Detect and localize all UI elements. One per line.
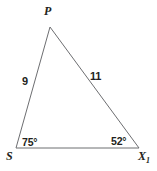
side-length-label-px1: 11: [90, 71, 101, 82]
vertex-label-p: P: [44, 5, 51, 17]
angle-measure-label-s: 75°: [22, 137, 37, 148]
vertex-label-x1-subscript: 1: [146, 156, 150, 165]
angle-measure-label-x1: 52°: [111, 136, 126, 147]
vertex-label-x1-base: X: [138, 149, 146, 163]
side-length-label-sp: 9: [22, 76, 28, 87]
vertex-label-x1: X1: [138, 150, 150, 165]
triangle-diagram: P S X1 9 11 75° 52°: [0, 0, 157, 171]
vertex-label-s: S: [6, 150, 13, 162]
triangle-outline: [16, 27, 139, 148]
